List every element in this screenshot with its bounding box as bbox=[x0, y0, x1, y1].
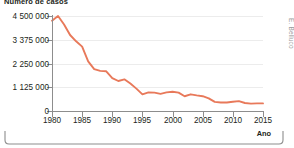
image-credit: E. Belluco bbox=[288, 18, 294, 49]
x-tick-label-2000: 2000 bbox=[164, 116, 182, 125]
bottom-bracket-decoration bbox=[4, 131, 284, 145]
x-tick-label-1995: 1995 bbox=[133, 116, 151, 125]
x-tick-label-1985: 1985 bbox=[73, 116, 91, 125]
x-tick-label-1990: 1990 bbox=[103, 116, 121, 125]
x-tick-label-2010: 2010 bbox=[224, 116, 242, 125]
chart-title: Número de casos bbox=[4, 0, 68, 6]
chart-figure: Número de casos 4 500 000 3 375 000 2 25… bbox=[0, 0, 294, 148]
series-line-numero-de-casos bbox=[52, 16, 263, 111]
x-tick-label-2005: 2005 bbox=[194, 116, 212, 125]
y-axis-spine bbox=[52, 15, 53, 112]
x-tick-label-2015: 2015 bbox=[254, 116, 272, 125]
x-tick-label-1980: 1980 bbox=[43, 116, 61, 125]
